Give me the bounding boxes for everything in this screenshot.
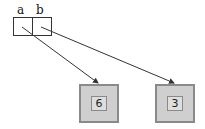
arrow-b-to-3: [41, 27, 174, 83]
pointer-arrows: [0, 0, 205, 129]
